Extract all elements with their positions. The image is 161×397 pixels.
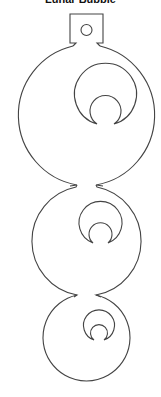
ornament-diagram (0, 0, 161, 397)
bubble-3-outline (43, 295, 130, 381)
hanger-tab (70, 14, 103, 46)
moon-1 (75, 63, 137, 124)
moon-2 (79, 201, 122, 243)
bubble-1-outline (18, 46, 154, 186)
moon-3 (83, 310, 114, 340)
bubble-2-outline (32, 185, 141, 297)
hanger-hole (81, 25, 92, 36)
